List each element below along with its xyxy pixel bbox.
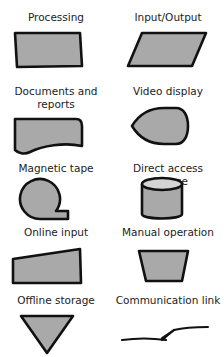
label-documents: Documents and reports (0, 85, 112, 111)
label-processing: Processing (0, 11, 112, 24)
label-documents-line1: Documents and (0, 85, 112, 98)
processing-symbol (12, 30, 102, 70)
magnetic-tape-symbol (18, 175, 78, 225)
label-magnetic-tape: Magnetic tape (0, 162, 112, 175)
label-input-output: Input/Output (112, 11, 224, 24)
offline-storage-symbol (18, 313, 78, 357)
label-video-display: Video display (112, 85, 224, 98)
label-manual-operation: Manual operation (112, 226, 224, 239)
input-output-symbol (126, 30, 216, 70)
documents-symbol (12, 116, 102, 158)
communication-link-symbol (118, 318, 218, 348)
manual-operation-symbol (136, 248, 196, 286)
video-display-symbol (128, 104, 208, 148)
label-documents-line2: reports (0, 98, 112, 111)
label-offline-storage: Offline storage (0, 294, 112, 307)
online-input-symbol (10, 247, 100, 287)
label-communication-link: Communication link (112, 294, 224, 307)
label-online-input: Online input (0, 226, 112, 239)
direct-access-storage-symbol (136, 174, 196, 226)
